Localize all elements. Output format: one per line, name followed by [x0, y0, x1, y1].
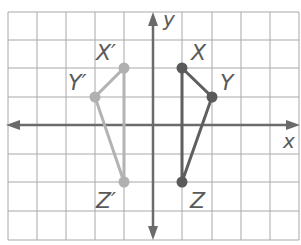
- coordinate-plane: x y X′ Y′ Z′ X Y Z: [0, 0, 301, 245]
- y-axis-label: y: [162, 7, 176, 31]
- label-x: X: [190, 40, 207, 65]
- label-x-prime: X′: [95, 40, 116, 65]
- axes: [6, 12, 300, 240]
- y-axis-down-arrow-icon: [148, 226, 158, 240]
- label-z: Z: [189, 188, 206, 213]
- point-y-prime: [90, 92, 101, 103]
- y-axis-up-arrow-icon: [148, 12, 158, 26]
- point-z-prime: [119, 177, 130, 188]
- point-y: [207, 92, 218, 103]
- point-x: [177, 63, 188, 74]
- label-y-prime: Y′: [68, 70, 86, 95]
- x-axis-label: x: [282, 129, 295, 153]
- label-z-prime: Z′: [95, 188, 116, 213]
- label-y: Y: [220, 70, 235, 95]
- point-z: [177, 177, 188, 188]
- point-x-prime: [119, 63, 130, 74]
